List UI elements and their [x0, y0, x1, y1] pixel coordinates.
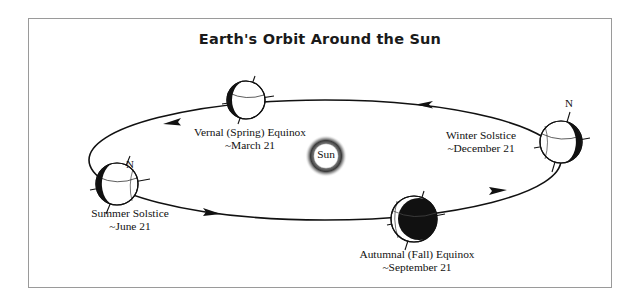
- label-summer-name: Summer Solstice: [91, 207, 169, 219]
- north-pole-label-winter: N: [565, 97, 573, 109]
- label-autumnal-name: Autumnal (Fall) Equinox: [359, 248, 474, 260]
- earth-globe-autumnal: [387, 191, 445, 250]
- label-autumnal-equinox: Autumnal (Fall) Equinox ~September 21: [334, 248, 500, 274]
- north-pole-label-summer: N: [126, 158, 134, 170]
- orbit-arrow-top-right: [416, 101, 433, 109]
- label-winter-solstice: Winter Solstice ~December 21: [419, 129, 543, 155]
- label-vernal-equinox: Vernal (Spring) Equinox ~March 21: [173, 126, 327, 152]
- orbit-diagram-figure: Earth's Orbit Around the Sun: [0, 0, 640, 304]
- label-summer-solstice: Summer Solstice ~June 21: [66, 207, 194, 233]
- label-winter-name: Winter Solstice: [446, 129, 516, 141]
- earth-globe-summer: [90, 156, 150, 214]
- label-vernal-date: ~March 21: [173, 139, 327, 152]
- earth-globe-vernal: [222, 76, 274, 124]
- orbit-arrow-bottom-right: [489, 187, 507, 195]
- label-summer-date: ~June 21: [66, 220, 194, 233]
- label-winter-date: ~December 21: [419, 142, 543, 155]
- label-autumnal-date: ~September 21: [334, 261, 500, 274]
- orbit-arrow-top-left: [163, 118, 181, 126]
- label-vernal-name: Vernal (Spring) Equinox: [194, 126, 306, 138]
